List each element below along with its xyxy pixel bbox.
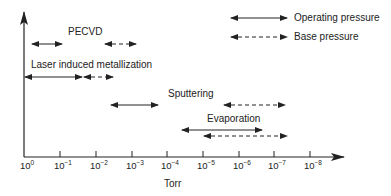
legend-base-label: Base pressure <box>294 31 358 42</box>
tick-label-0: 100 <box>20 160 34 171</box>
legend-operating-label: Operating pressure <box>294 12 380 23</box>
x-axis-label: Torr <box>164 178 181 189</box>
process-label-laser: Laser induced metallization <box>31 59 152 70</box>
tick-label-5: 10−5 <box>197 160 215 171</box>
tick-label-1: 10−1 <box>54 160 72 171</box>
tick-label-3: 10−3 <box>126 160 144 171</box>
tick-label-7: 10−7 <box>268 160 286 171</box>
process-label-sputtering: Sputtering <box>168 88 214 99</box>
process-label-evaporation: Evaporation <box>207 113 260 124</box>
tick-label-2: 10−2 <box>90 160 108 171</box>
tick-label-8: 10−8 <box>304 160 322 171</box>
x-axis-ticks <box>60 151 310 157</box>
tick-label-4: 10−4 <box>161 160 179 171</box>
process-label-pecvd: PECVD <box>68 26 102 37</box>
tick-label-6: 10−6 <box>233 160 251 171</box>
